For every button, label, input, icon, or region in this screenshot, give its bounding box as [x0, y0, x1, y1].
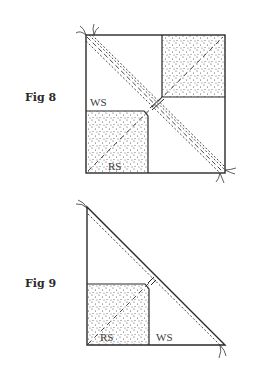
fig8-anti-diagonal: [88, 37, 223, 171]
fig9-rs-label: RS: [100, 331, 113, 343]
fig9-thread-tail-top-icon: [76, 200, 87, 208]
fig8-thread-tail-bottom-right-icon: [216, 168, 236, 183]
fig9-rs-patch: [88, 284, 149, 345]
fig8-seam-junction-icon: [150, 97, 164, 110]
fig9-seam-junction-icon: [148, 277, 156, 285]
fig9-ws-label: WS: [156, 331, 173, 343]
fig8-thread-tail-top-left-icon: [76, 24, 99, 35]
fig8-ws-label: WS: [90, 96, 107, 108]
diagram-canvas: WS RS RS WS: [0, 0, 254, 379]
fig9-thread-tail-bottom-icon: [219, 345, 226, 358]
fig9-diagram: RS WS: [76, 200, 226, 358]
fig8-diagram: WS RS: [76, 24, 236, 183]
fig8-rs-label: RS: [108, 160, 121, 172]
